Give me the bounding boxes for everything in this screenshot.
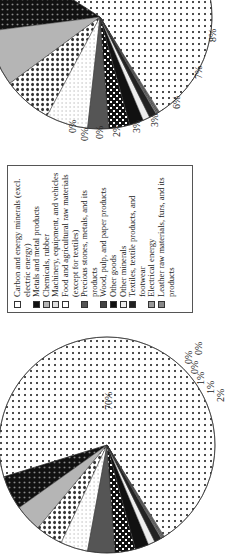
pie-label: 2% — [215, 389, 226, 402]
legend-label: Food and agricultural raw materials (exc… — [61, 170, 80, 297]
pie-chart-right: 11%8%7%6%3%3%2%0%0%0% — [0, 0, 220, 137]
legend-item: Textiles, textile products, and footwear — [128, 170, 147, 308]
pie-label: 0% — [94, 126, 105, 139]
pie-label: 3% — [149, 114, 160, 127]
legend-label: Carbon and energy minerals (excl. electr… — [13, 170, 32, 297]
legend-swatch-icon — [62, 301, 69, 308]
legend-swatch-icon — [129, 301, 136, 308]
pie-label: 0% — [79, 128, 90, 141]
legend-label: Textiles, textile products, and footwear — [128, 170, 147, 297]
legend-swatch-icon — [33, 301, 40, 308]
pie-label: 2% — [111, 124, 122, 137]
pie-label: 0% — [67, 120, 78, 133]
pie-label: 6% — [171, 96, 182, 109]
pie-label: 3% — [131, 120, 142, 133]
legend-label: Precious stones, metals, and its product… — [80, 170, 99, 297]
pie-chart-left: 70%2%1%1%0%0%0% — [0, 330, 222, 558]
legend-item: Leather raw materials, furs, and its pro… — [157, 170, 176, 308]
legend-swatch-icon — [52, 301, 59, 308]
legend-swatch-icon — [110, 301, 117, 308]
legend-swatch-icon — [43, 301, 50, 308]
legend-swatch-icon — [100, 301, 107, 308]
pie-label: 8% — [207, 29, 218, 42]
legend-swatch-icon — [120, 301, 127, 308]
pie-label: 7% — [193, 66, 204, 79]
legend-swatch-icon — [148, 301, 155, 308]
legend-item: Food and agricultural raw materials (exc… — [61, 170, 80, 308]
legend-swatch-icon — [14, 301, 21, 308]
pie-label: 70% — [103, 392, 114, 410]
legend-swatch-icon — [158, 301, 165, 308]
legend-label: Leather raw materials, furs, and its pro… — [157, 170, 176, 297]
pie-label: 1% — [205, 381, 216, 394]
pie-label: 0% — [193, 342, 204, 355]
legend-item: Precious stones, metals, and its product… — [80, 170, 99, 308]
chart-legend: Carbon and energy minerals (excl. electr… — [7, 165, 193, 313]
legend-item: Carbon and energy minerals (excl. electr… — [13, 170, 32, 308]
legend-swatch-icon — [81, 301, 88, 308]
